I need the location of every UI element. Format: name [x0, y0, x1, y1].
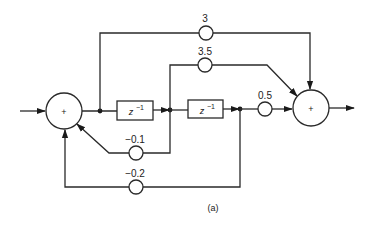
svg-text:3: 3 [202, 13, 208, 24]
figure-caption: (a) [208, 203, 219, 213]
summing-junction-right: + [293, 90, 329, 126]
gain-0.5: 0.5 [258, 90, 272, 116]
svg-text:z: z [128, 107, 134, 117]
svg-text:0.5: 0.5 [258, 90, 272, 101]
svg-text:−0.2: −0.2 [125, 168, 145, 179]
gain-neg0.2: −0.2 [125, 168, 145, 194]
gain-neg0.1: −0.1 [125, 134, 145, 160]
svg-text:−0.1: −0.1 [125, 134, 145, 145]
signal-flow-diagram: + z −1 z −1 [0, 0, 373, 225]
svg-text:−1: −1 [136, 104, 144, 111]
summing-junction-left: + [46, 93, 82, 129]
svg-text:z: z [199, 106, 205, 116]
delay-block-1: z −1 [117, 101, 153, 120]
gain-3: 3 [199, 13, 213, 40]
feedback-path-neg0.2 [65, 109, 240, 187]
gain-3.5: 3.5 [198, 46, 212, 72]
plus-sign: + [61, 107, 66, 117]
svg-text:−1: −1 [207, 103, 215, 110]
plus-sign: + [308, 104, 313, 114]
svg-text:3.5: 3.5 [198, 46, 212, 57]
delay-block-2: z −1 [188, 100, 223, 118]
